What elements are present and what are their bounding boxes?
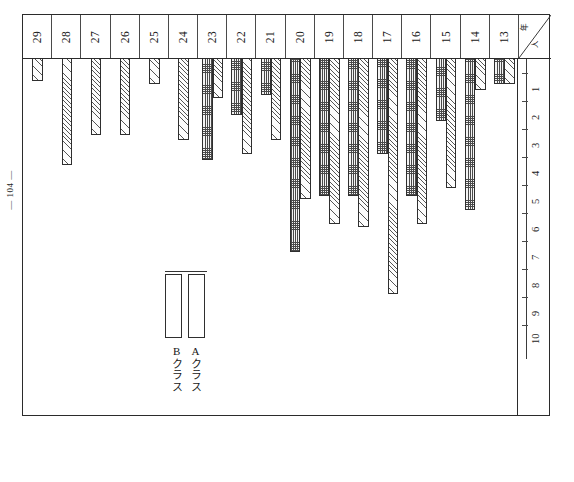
category-header-label: 18 <box>352 30 364 43</box>
bar-a-class <box>62 59 73 165</box>
category-header-cell: 29 <box>23 15 52 58</box>
axis-tick-label: 10 <box>530 334 541 345</box>
category-header-label: 16 <box>410 30 422 43</box>
bar-a-class <box>475 59 486 90</box>
bar-b-class <box>319 59 330 196</box>
page-root: — 104 — 29282726252423222120191817161514… <box>0 0 574 482</box>
axis-tick <box>522 241 528 242</box>
axis-tick-label: 9 <box>530 311 541 316</box>
bar-b-class <box>406 59 417 196</box>
axis-tick <box>522 129 528 130</box>
bar-a-class <box>242 59 253 154</box>
category-header-cell: 20 <box>286 15 315 58</box>
corner-label-bottom: 人 <box>529 41 540 48</box>
category-header-cell: 24 <box>169 15 198 58</box>
category-header-label: 17 <box>381 30 393 43</box>
category-header-cell: 25 <box>140 15 169 58</box>
category-header-cell: 22 <box>227 15 256 58</box>
category-header-cell: 17 <box>373 15 402 58</box>
plot-area <box>23 59 519 416</box>
category-header-cell: 14 <box>461 15 490 58</box>
axis-corner-cell: 年 人 <box>519 15 551 58</box>
bar-a-class <box>149 59 160 84</box>
category-header-label: 22 <box>235 30 247 43</box>
bar-b-class <box>436 59 447 121</box>
legend-label-a-class: Aクラス <box>189 345 201 392</box>
category-header-label: 19 <box>323 30 335 43</box>
bar-b-class <box>348 59 359 196</box>
category-header-label: 24 <box>177 30 189 43</box>
chart-container: 2928272625242322212019181716151413 年 人 1… <box>22 14 550 416</box>
axis-tick <box>522 73 528 74</box>
category-header-cell: 18 <box>344 15 373 58</box>
page-folio: — 104 — <box>5 168 15 212</box>
category-header-strip: 2928272625242322212019181716151413 年 人 <box>23 15 551 59</box>
axis-tick <box>522 297 528 298</box>
bar-a-class <box>178 59 189 140</box>
axis-tick-label: 8 <box>530 283 541 288</box>
category-header-label: 13 <box>498 30 510 43</box>
category-header-cell: 23 <box>198 15 227 58</box>
category-header-label: 21 <box>264 30 276 43</box>
bar-b-class <box>231 59 242 115</box>
category-header-cell: 26 <box>111 15 140 58</box>
bar-b-class <box>202 59 213 160</box>
bar-a-class <box>329 59 340 224</box>
bar-a-class <box>120 59 131 135</box>
category-header-label: 14 <box>469 30 481 43</box>
category-header-cell: 28 <box>52 15 81 58</box>
axis-tick-label: 4 <box>530 171 541 176</box>
axis-tick <box>522 213 528 214</box>
chart-legend: Aクラス Bクラス <box>163 271 211 391</box>
bar-a-class <box>271 59 282 140</box>
corner-diagonal-divider-icon <box>519 15 551 58</box>
bar-a-class <box>358 59 369 227</box>
axis-tick-label: 3 <box>530 143 541 148</box>
corner-label-top: 年 <box>519 24 529 31</box>
category-header-label: 27 <box>89 30 101 43</box>
axis-tick <box>522 157 528 158</box>
category-header-cell: 13 <box>490 15 519 58</box>
bar-b-class <box>465 59 476 210</box>
legend-rule <box>165 271 207 272</box>
axis-tick-label: 7 <box>530 255 541 260</box>
category-header-label: 26 <box>119 30 131 43</box>
axis-tick <box>522 325 528 326</box>
bar-a-class <box>504 59 515 84</box>
bar-b-class <box>377 59 388 154</box>
bar-b-class <box>261 59 272 95</box>
legend-swatch-b-class <box>165 274 182 338</box>
axis-tick <box>522 101 528 102</box>
legend-swatch-a-class <box>188 274 205 338</box>
bar-a-class <box>388 59 399 294</box>
value-axis: 12345678910 <box>517 59 549 416</box>
category-header-cell: 27 <box>81 15 110 58</box>
category-header-cell: 15 <box>431 15 460 58</box>
category-header-label: 20 <box>294 30 306 43</box>
axis-line <box>526 59 527 359</box>
category-header-label: 23 <box>206 30 218 43</box>
axis-tick-label: 1 <box>530 87 541 92</box>
bar-a-class <box>300 59 311 199</box>
axis-tick-label: 6 <box>530 227 541 232</box>
category-header-cell: 16 <box>402 15 431 58</box>
category-header-cell: 21 <box>256 15 285 58</box>
bar-a-class <box>446 59 457 188</box>
category-header-label: 29 <box>31 30 43 43</box>
bar-a-class <box>417 59 428 224</box>
axis-tick <box>522 185 528 186</box>
bar-b-class <box>494 59 505 84</box>
bar-b-class <box>290 59 301 252</box>
bar-a-class <box>32 59 43 81</box>
bar-a-class <box>213 59 224 98</box>
category-header-cell: 19 <box>315 15 344 58</box>
category-header-label: 15 <box>440 30 452 43</box>
axis-tick-label: 2 <box>530 115 541 120</box>
axis-tick-label: 5 <box>530 199 541 204</box>
axis-tick <box>522 269 528 270</box>
category-header-label: 28 <box>60 30 72 43</box>
bar-a-class <box>91 59 102 135</box>
legend-label-b-class: Bクラス <box>170 345 182 392</box>
category-header-label: 25 <box>148 30 160 43</box>
